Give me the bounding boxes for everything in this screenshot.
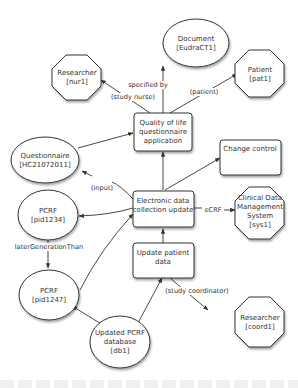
edge-pcrf1247-to-edc	[80, 214, 133, 290]
cropped-caption-strip	[0, 380, 298, 388]
edge-label-study-nurse: (study nurse)	[111, 93, 155, 101]
edge-edc-to-change	[165, 158, 220, 190]
node-label-line: Electronic data	[137, 197, 190, 205]
node-label-line: Clinical Data	[238, 194, 282, 202]
node-label-line: Change control	[223, 145, 276, 153]
node-label-line: [pid1234]	[31, 216, 65, 224]
node-label-line: [pat1]	[249, 75, 271, 83]
node-cdms[interactable]: Clinical Data Management System [sys1]	[235, 187, 284, 239]
node-label-line: Management	[237, 203, 283, 211]
node-document[interactable]: Document [EudraCT1]	[163, 19, 229, 67]
edge-input-to-questionnaire	[82, 171, 92, 176]
node-questionnaire[interactable]: Questionnaire [HC21072011]	[11, 137, 79, 183]
edge-label-study-coordinator: (study coordinator)	[165, 287, 228, 295]
node-researcher-coord1[interactable]: Researcher [coord1]	[235, 297, 284, 347]
node-label-line: Update patient	[137, 249, 190, 257]
node-pcrf-pid1234[interactable]: PCRF [pid1234]	[18, 190, 78, 240]
edge-questionnaire-to-qol	[78, 133, 133, 148]
edge-label-patient: (patient)	[190, 88, 219, 96]
node-label-line: application	[144, 137, 183, 145]
node-label-line: [nur1]	[66, 78, 88, 86]
node-label-line: PCRF	[40, 287, 58, 295]
edge-label-ecrf: eCRF	[204, 206, 221, 214]
edge-label-input: (input)	[91, 184, 113, 192]
node-change-control[interactable]: Change control	[220, 140, 281, 175]
node-pcrf-pid1247[interactable]: PCRF [pid1247]	[19, 270, 79, 320]
node-label-line: Researcher	[240, 314, 279, 322]
node-researcher-nur1[interactable]: Researcher [nur1]	[52, 55, 101, 100]
edge-db-to-pcrf1247	[72, 306, 103, 325]
node-label-line: [EudraCT1]	[176, 44, 216, 52]
edge-label-specified-by: specified by	[128, 81, 168, 89]
node-label-line: [pid1247]	[32, 296, 66, 304]
node-label-line: System	[247, 212, 273, 220]
node-qol-application[interactable]: Quality of life questionnaire applicatio…	[134, 113, 192, 151]
node-updated-pcrf-database[interactable]: Updated PCRF database [db1]	[90, 316, 150, 368]
node-label-line: Patient	[248, 66, 273, 74]
node-label-line: [HC21072011]	[19, 161, 71, 169]
provenance-diagram: specified by (study nurse) (patient) (in…	[0, 0, 298, 388]
node-label-line: questionnaire	[139, 128, 187, 136]
node-label-line: [sys1]	[249, 221, 271, 229]
node-label-line: Quality of life	[140, 119, 187, 127]
node-label-line: data	[155, 258, 171, 266]
node-label-line: [db1]	[111, 347, 130, 355]
node-label-line: Questionnaire	[20, 152, 69, 160]
node-label-line: PCRF	[39, 207, 57, 215]
node-label-line: database	[104, 338, 136, 346]
node-update-patient-data[interactable]: Update patient data	[133, 243, 194, 278]
edge-label-later-generation-than: laterGenerationThan	[15, 243, 83, 251]
node-label-line: Document	[178, 35, 215, 43]
edge-db-to-update	[138, 278, 162, 323]
edge-edc-to-pcrf1234	[79, 208, 133, 216]
node-label-line: Researcher	[57, 69, 96, 77]
node-label-line: collection update	[133, 206, 193, 214]
node-label-line: Updated PCRF	[95, 329, 145, 337]
node-edc-update[interactable]: Electronic data collection update	[133, 191, 194, 227]
node-patient[interactable]: Patient [pat1]	[235, 50, 284, 97]
node-label-line: [coord1]	[245, 323, 275, 331]
